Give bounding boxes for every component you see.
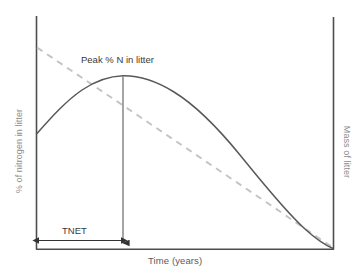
tnet-annotation-label: TNET: [62, 225, 87, 236]
nitrogen-percent-curve: [37, 76, 333, 249]
mass-of-litter-curve: [37, 48, 333, 248]
x-axis-label: Time (years): [148, 255, 202, 266]
peak-annotation-label: Peak % N in litter: [81, 54, 154, 65]
chart-plot-area: [0, 0, 363, 278]
y-axis-right-label: Mass of litter: [342, 97, 352, 207]
y-axis-left-label: % of nitrogen in litter: [14, 91, 24, 211]
nitrogen-litter-decomposition-chart: Time (years) % of nitrogen in litter Mas…: [0, 0, 363, 278]
